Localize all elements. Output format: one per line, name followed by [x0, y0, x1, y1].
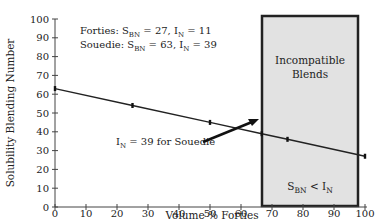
svg-text:40: 40: [36, 126, 49, 137]
legend-souedie: Souedie: SBN = 63, IN = 39: [80, 39, 217, 53]
svg-text:20: 20: [111, 208, 124, 219]
y-axis-label: Solubility Blending Number: [4, 38, 16, 188]
arrow-label: IN = 39 for Souedie: [116, 136, 215, 150]
svg-text:10: 10: [80, 208, 93, 219]
svg-text:0: 0: [52, 208, 58, 219]
svg-text:100: 100: [30, 14, 49, 25]
svg-text:10: 10: [36, 183, 49, 194]
svg-text:20: 20: [36, 164, 49, 175]
region-label-line1: Incompatible: [275, 54, 345, 66]
svg-text:30: 30: [36, 145, 49, 156]
region-label-line2: Blends: [292, 68, 328, 80]
svg-text:70: 70: [36, 70, 49, 81]
y-ticks: 0102030405060708090100: [30, 14, 58, 213]
svg-text:70: 70: [266, 208, 279, 219]
svg-text:100: 100: [355, 208, 374, 219]
svg-text:80: 80: [36, 51, 49, 62]
svg-text:50: 50: [36, 108, 49, 119]
solubility-blending-chart: Incompatible Blends SBN < IN 01020304050…: [0, 0, 389, 222]
svg-text:90: 90: [36, 32, 49, 43]
legend-forties: Forties: SBN = 27, IN = 11: [80, 25, 212, 39]
svg-text:60: 60: [36, 89, 49, 100]
svg-text:0: 0: [43, 202, 49, 213]
svg-text:30: 30: [142, 208, 155, 219]
incompatible-region: [262, 16, 358, 206]
svg-text:80: 80: [297, 208, 310, 219]
x-axis-label: Volume % Forties: [164, 209, 258, 221]
svg-text:90: 90: [328, 208, 341, 219]
